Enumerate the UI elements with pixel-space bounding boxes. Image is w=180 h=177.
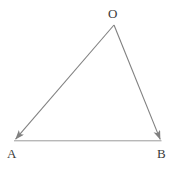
triangle-diagram-figure: O A B	[0, 0, 180, 177]
vertex-label-o: O	[108, 7, 117, 20]
edge-OB-arrow	[114, 25, 160, 139]
edge-OA-arrow	[16, 25, 114, 139]
vertex-label-b: B	[157, 147, 166, 160]
diagram-canvas	[0, 0, 180, 177]
vertex-label-a: A	[7, 147, 16, 160]
